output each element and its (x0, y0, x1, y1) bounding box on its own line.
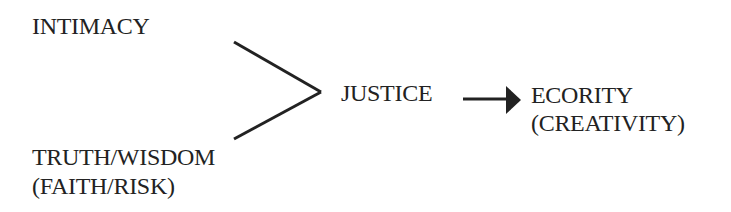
edge-intimacy-justice (234, 42, 321, 92)
node-justice: JUSTICE (341, 79, 432, 107)
node-truth-wisdom: TRUTH/WISDOM (32, 143, 215, 171)
edge-truth-justice (234, 92, 321, 139)
arrow-justice-ecority (463, 86, 521, 114)
node-creativity: (CREATIVITY) (531, 109, 685, 137)
node-faith-risk: (FAITH/RISK) (32, 172, 175, 200)
node-intimacy: INTIMACY (32, 12, 150, 40)
node-ecority: ECORITY (531, 81, 633, 109)
